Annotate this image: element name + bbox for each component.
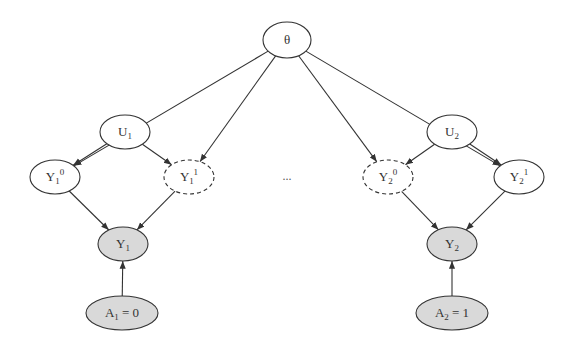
node-A2: A2 = 1 [416, 296, 488, 330]
node-Y1_0: Y10 [30, 160, 80, 194]
edge-theta-to-Y1_1 [200, 56, 276, 162]
node-Y2_1: Y21 [494, 160, 544, 194]
edge-A1-to-Y1 [122, 261, 123, 296]
edge-theta-to-Y2_0 [299, 56, 377, 162]
node-Y1: Y1 [98, 227, 148, 261]
node-label: θ [284, 32, 290, 47]
node-label: A2 = 1 [435, 305, 469, 322]
node-Y1_1: Y11 [164, 160, 214, 194]
edge-U2-to-Y2_0 [405, 144, 434, 165]
node-U1: U1 [100, 115, 150, 149]
edge-Y2_1-to-Y2 [466, 191, 505, 230]
causal-graph: θU1U2Y10Y11Y20Y21Y1Y2A1 = 0A2 = 1 ... [0, 0, 574, 353]
node-theta: θ [263, 22, 311, 58]
edge-Y2_0-to-Y2 [402, 191, 439, 229]
edge-U1-to-Y1_0 [73, 144, 107, 166]
ellipsis-label: ... [283, 169, 292, 183]
edge-theta-to-Y1_0 [74, 51, 268, 166]
edge-theta-to-Y2_1 [306, 51, 500, 166]
node-U2: U2 [427, 115, 477, 149]
edge-Y1_0-to-Y1 [69, 191, 109, 230]
node-label: A1 = 0 [105, 305, 139, 322]
edge-U1-to-Y1_1 [142, 144, 171, 165]
node-Y2_0: Y20 [363, 160, 413, 194]
node-A1: A1 = 0 [86, 296, 158, 330]
edge-Y1_1-to-Y1 [137, 191, 175, 230]
edge-U2-to-Y2_1 [470, 144, 501, 165]
node-Y2: Y2 [427, 227, 477, 261]
